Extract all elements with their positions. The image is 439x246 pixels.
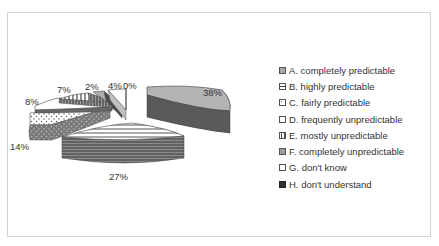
legend-label: A. completely predictable <box>289 65 395 76</box>
legend-item-b: B. highly predictable <box>279 78 429 94</box>
legend-label: D. frequently unpredictable <box>289 114 403 125</box>
swatch-horizontal-lines-icon <box>279 83 286 90</box>
label-a: 38% <box>203 87 222 98</box>
swatch-white-icon <box>279 116 286 123</box>
legend-label: C. fairly predictable <box>289 97 370 108</box>
legend: A. completely predictable B. highly pred… <box>279 62 429 192</box>
swatch-vertical-lines-icon <box>279 132 286 139</box>
legend-label: B. highly predictable <box>289 81 375 92</box>
legend-item-a: A. completely predictable <box>279 62 429 78</box>
label-h: 0% <box>123 80 137 91</box>
legend-item-d: D. frequently unpredictable <box>279 111 429 127</box>
legend-item-g: G. don't know <box>279 160 429 176</box>
label-e: 7% <box>57 84 71 95</box>
legend-label: H. don't understand <box>289 179 372 190</box>
legend-label: F. completely unpredictable <box>289 146 404 157</box>
legend-item-e: E. mostly unpredictable <box>279 127 429 143</box>
swatch-gray-dots-icon <box>279 148 286 155</box>
swatch-dotted-icon <box>279 99 286 106</box>
label-d: 8% <box>25 96 39 107</box>
label-g: 4% <box>108 80 122 91</box>
label-b: 27% <box>109 171 128 182</box>
legend-item-c: C. fairly predictable <box>279 95 429 111</box>
label-c: 14% <box>10 141 29 152</box>
legend-label: E. mostly unpredictable <box>289 130 388 141</box>
swatch-solid-gray-icon <box>279 67 286 74</box>
legend-label: G. don't know <box>289 162 347 173</box>
label-f: 2% <box>85 81 99 92</box>
swatch-solid-dark-icon <box>279 181 286 188</box>
legend-item-f: F. completely unpredictable <box>279 143 429 159</box>
swatch-white-icon <box>279 164 286 171</box>
legend-item-h: H. don't understand <box>279 176 429 192</box>
